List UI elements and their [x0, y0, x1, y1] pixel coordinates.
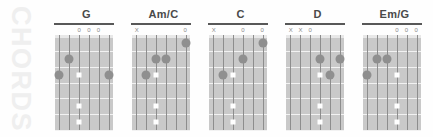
- string-marker-row: 000: [55, 26, 113, 34]
- string-line: [69, 35, 70, 130]
- string-marker: [142, 26, 152, 34]
- string-marker: [363, 26, 373, 34]
- string-line: [166, 35, 167, 130]
- fret-line: [55, 114, 113, 115]
- fret-line: [55, 83, 113, 84]
- nut: [55, 35, 113, 38]
- string-marker-row: X00: [209, 26, 267, 34]
- fret-line: [209, 83, 267, 84]
- fret-inlay-marker: [395, 72, 400, 77]
- fretboard: [55, 35, 113, 130]
- string-marker-row: XX0: [286, 26, 344, 34]
- chord-diagram-row: G000Am/CX0CX00DXX0Em/G000: [48, 0, 433, 137]
- string-marker: X: [209, 26, 219, 34]
- string-line: [89, 35, 90, 130]
- string-marker: [219, 26, 229, 34]
- nut: [132, 35, 190, 38]
- nut: [209, 35, 267, 38]
- string-line: [233, 35, 234, 130]
- string-line: [263, 35, 264, 130]
- watermark-label: CHORDS: [7, 5, 34, 131]
- chord-name: D: [279, 9, 356, 20]
- string-marker: [161, 26, 171, 34]
- fret-inlay-marker: [318, 72, 323, 77]
- chord-diagram: CX00: [202, 0, 279, 137]
- string-marker: 0: [74, 26, 84, 34]
- string-line: [330, 35, 331, 130]
- fret-line: [132, 83, 190, 84]
- string-line: [253, 35, 254, 130]
- fret-inlay-marker: [77, 72, 82, 77]
- string-line: [156, 35, 157, 130]
- string-line: [186, 35, 187, 130]
- finger-position-dot: [182, 38, 191, 47]
- fret-inlay-marker: [154, 104, 159, 109]
- finger-position-dot: [326, 70, 335, 79]
- fret-line: [55, 51, 113, 52]
- finger-position-dot: [373, 54, 382, 63]
- finger-position-dot: [152, 54, 161, 63]
- chord-diagram: Am/CX0: [125, 0, 202, 137]
- fret-line: [132, 114, 190, 115]
- fret-line: [363, 83, 421, 84]
- finger-position-dot: [219, 70, 228, 79]
- string-marker: [248, 26, 258, 34]
- finger-position-dot: [162, 54, 171, 63]
- fret-inlay-marker: [395, 104, 400, 109]
- chord-title-rule: [208, 23, 268, 25]
- string-line: [300, 35, 301, 130]
- fret-inlay-marker: [231, 72, 236, 77]
- string-line: [367, 35, 368, 130]
- string-marker: 0: [305, 26, 315, 34]
- string-line: [79, 35, 80, 130]
- fret-line: [209, 98, 267, 99]
- chord-name: Am/C: [125, 9, 202, 20]
- string-marker: [334, 26, 344, 34]
- string-marker: [103, 26, 113, 34]
- chord-title-rule: [131, 23, 191, 25]
- fret-line: [55, 67, 113, 68]
- fret-inlay-marker: [395, 120, 400, 125]
- fret-line: [363, 51, 421, 52]
- finger-position-dot: [142, 70, 151, 79]
- string-marker: [382, 26, 392, 34]
- chords-watermark: CHORDS: [0, 0, 40, 137]
- fret-line: [363, 130, 421, 131]
- string-marker-row: 000: [363, 26, 421, 34]
- fret-line: [55, 98, 113, 99]
- string-marker: [55, 26, 65, 34]
- finger-position-dot: [259, 38, 268, 47]
- fret-inlay-marker: [231, 104, 236, 109]
- fret-inlay-marker: [231, 120, 236, 125]
- fret-line: [132, 51, 190, 52]
- string-line: [213, 35, 214, 130]
- string-marker: 0: [402, 26, 412, 34]
- fret-line: [286, 51, 344, 52]
- string-marker-row: X0: [132, 26, 190, 34]
- finger-position-dot: [65, 54, 74, 63]
- chord-diagram: G000: [48, 0, 125, 137]
- fret-line: [132, 98, 190, 99]
- fret-line: [132, 67, 190, 68]
- fret-line: [286, 114, 344, 115]
- fret-inlay-marker: [77, 104, 82, 109]
- fret-line: [209, 51, 267, 52]
- string-line: [223, 35, 224, 130]
- string-marker: 0: [392, 26, 402, 34]
- string-line: [397, 35, 398, 130]
- string-marker: X: [296, 26, 306, 34]
- chord-diagram: DXX0: [279, 0, 356, 137]
- string-line: [99, 35, 100, 130]
- finger-position-dot: [363, 70, 372, 79]
- chord-diagram: Em/G000: [356, 0, 433, 137]
- string-marker: [325, 26, 335, 34]
- string-marker: 0: [257, 26, 267, 34]
- finger-position-dot: [316, 54, 325, 63]
- nut: [286, 35, 344, 38]
- string-line: [340, 35, 341, 130]
- fret-line: [286, 83, 344, 84]
- string-marker: 0: [180, 26, 190, 34]
- string-marker: 0: [94, 26, 104, 34]
- chord-title-rule: [54, 23, 114, 25]
- string-marker: [373, 26, 383, 34]
